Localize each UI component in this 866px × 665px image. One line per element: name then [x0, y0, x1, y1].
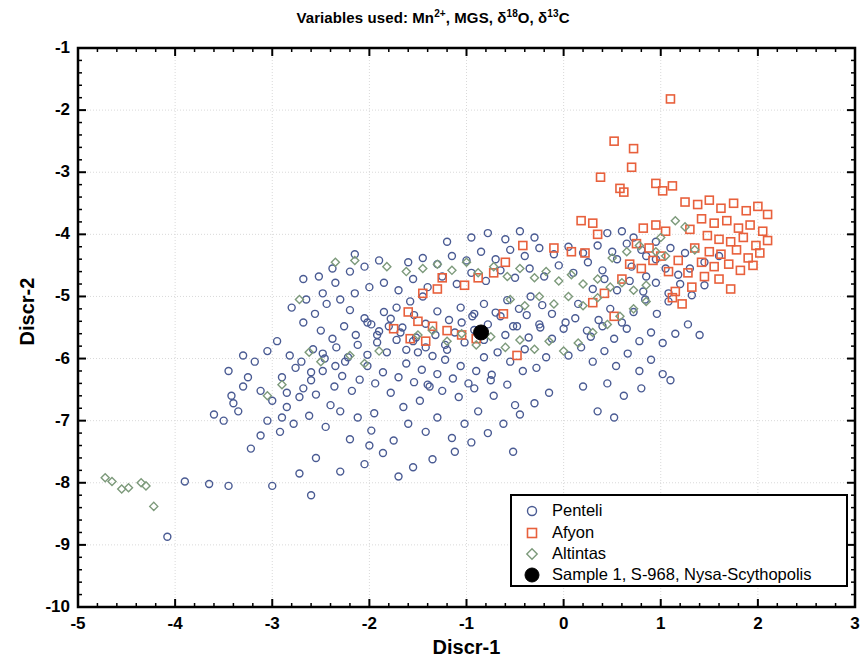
data-point — [443, 327, 451, 335]
data-point — [379, 369, 386, 376]
data-point — [555, 277, 563, 285]
data-point — [717, 250, 725, 258]
data-point — [393, 336, 400, 343]
data-point — [637, 264, 645, 272]
data-point — [648, 356, 655, 363]
data-point — [395, 287, 402, 294]
data-point — [393, 304, 400, 311]
data-point — [264, 348, 271, 355]
data-point — [589, 285, 596, 292]
data-point — [290, 420, 297, 427]
data-point — [734, 224, 742, 232]
data-point — [371, 410, 378, 417]
data-point — [164, 533, 171, 540]
data-point — [516, 264, 524, 272]
data-point — [610, 137, 618, 145]
data-point — [546, 389, 553, 396]
data-point — [611, 335, 618, 342]
data-point — [507, 246, 514, 253]
data-point — [698, 215, 706, 223]
data-point — [419, 254, 426, 261]
data-point — [677, 281, 684, 288]
data-point — [652, 279, 659, 286]
data-point — [461, 420, 468, 427]
data-point — [468, 234, 475, 241]
data-point — [572, 315, 579, 322]
data-point — [225, 482, 232, 489]
data-point — [230, 400, 237, 407]
data-point — [648, 329, 655, 336]
data-point — [337, 468, 344, 475]
data-point — [688, 292, 695, 299]
legend-row: Altintas — [512, 542, 846, 565]
data-point — [475, 408, 482, 415]
data-point — [277, 428, 284, 435]
legend-marker-sample — [512, 565, 552, 585]
data-point — [383, 263, 391, 271]
series-afyon — [390, 95, 772, 360]
data-point — [379, 449, 386, 456]
data-point — [603, 320, 611, 328]
data-point — [492, 309, 499, 316]
data-point — [653, 310, 660, 317]
data-point — [434, 414, 441, 421]
data-point — [594, 408, 601, 415]
data-point — [471, 385, 478, 392]
legend: Penteli Afyon Altintas Sample 1, S-968, … — [510, 494, 848, 587]
data-point — [601, 348, 608, 355]
data-point — [312, 454, 319, 461]
data-point — [764, 237, 772, 245]
data-point — [257, 387, 264, 394]
legend-row: Sample 1, S-968, Nysa-Scythopolis — [512, 563, 846, 586]
data-point — [536, 244, 543, 251]
data-point — [300, 385, 307, 392]
data-point — [448, 253, 455, 260]
data-point — [696, 331, 703, 338]
data-point — [579, 280, 587, 288]
data-point — [624, 350, 631, 357]
data-point — [548, 335, 555, 342]
data-point — [446, 317, 453, 324]
data-point — [220, 417, 227, 424]
data-point — [354, 414, 361, 421]
data-point — [331, 383, 338, 390]
data-point — [623, 240, 630, 247]
data-point — [535, 292, 543, 300]
data-point — [727, 285, 735, 293]
data-point — [300, 319, 307, 326]
data-point — [283, 389, 290, 396]
data-point — [613, 363, 620, 370]
data-point — [405, 420, 412, 427]
data-point — [351, 290, 358, 297]
data-point — [739, 233, 747, 241]
data-point — [439, 387, 446, 394]
legend-marker-glyph — [527, 548, 537, 558]
data-point — [448, 435, 455, 442]
data-point — [671, 217, 679, 225]
data-point — [736, 266, 744, 274]
data-point — [457, 304, 464, 311]
data-point — [521, 346, 528, 353]
data-point — [715, 275, 723, 283]
data-point — [300, 276, 307, 283]
data-point — [703, 232, 711, 240]
data-point — [521, 253, 528, 260]
data-point — [502, 236, 509, 243]
data-point — [510, 448, 517, 455]
data-point — [723, 217, 731, 225]
data-point — [659, 371, 666, 378]
data-point — [643, 273, 650, 280]
data-point — [387, 315, 394, 322]
data-point — [366, 284, 373, 291]
data-point — [380, 308, 387, 315]
data-point — [449, 375, 456, 382]
legend-marker-penteli — [512, 501, 552, 521]
data-point — [584, 259, 591, 266]
data-point — [567, 271, 575, 279]
data-point — [372, 380, 379, 387]
data-point — [319, 367, 326, 374]
data-point — [611, 414, 618, 421]
legend-label-altintas: Altintas — [552, 544, 606, 563]
data-point — [228, 392, 235, 399]
data-point — [278, 414, 285, 421]
